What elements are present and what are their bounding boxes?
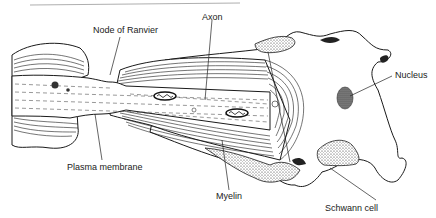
nucleus-shape bbox=[337, 87, 353, 109]
leader-schwann-cell bbox=[330, 168, 376, 200]
leader-plasma-membrane bbox=[95, 114, 102, 160]
header-rule bbox=[30, 3, 240, 5]
label-myelin: Myelin bbox=[216, 191, 242, 201]
label-node-of-ranvier: Node of Ranvier bbox=[93, 25, 158, 35]
label-plasma-membrane: Plasma membrane bbox=[67, 162, 143, 172]
myelinated-axon-diagram: Node of Ranvier Axon Nucleus Plasma memb… bbox=[0, 0, 436, 218]
leader-node-of-ranvier bbox=[110, 37, 120, 75]
label-axon: Axon bbox=[202, 12, 223, 22]
label-nucleus: Nucleus bbox=[395, 70, 428, 80]
label-schwann-cell: Schwann cell bbox=[325, 203, 378, 213]
